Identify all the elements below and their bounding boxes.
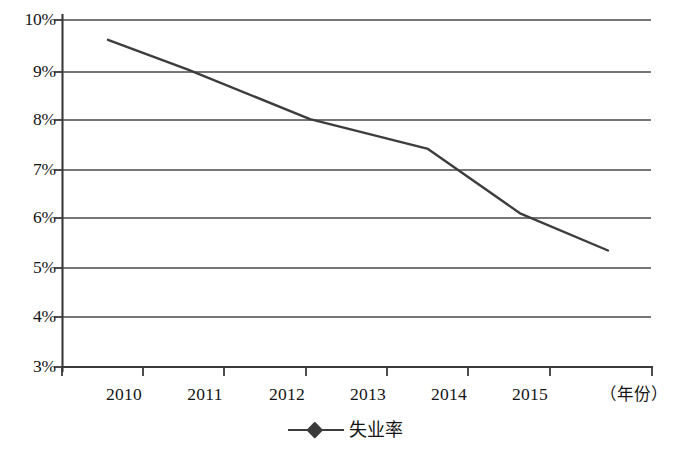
x-axis-label-2010: 2010 [84, 386, 164, 404]
y-axis-label-9: 9% [4, 63, 56, 81]
y-axis-label-10: 10% [4, 11, 56, 29]
chart-plot-area [0, 0, 691, 452]
chart-legend: 失业率 [0, 421, 691, 439]
x-axis-label-2015: 2015 [490, 386, 570, 404]
x-axis-label-2013: 2013 [328, 386, 408, 404]
x-axis-label-2014: 2014 [409, 386, 489, 404]
x-axis-label-2012: 2012 [247, 386, 327, 404]
x-axis-unit-label: （年份） [600, 387, 668, 404]
y-axis-label-3: 3% [4, 358, 56, 376]
gridlines [62, 20, 651, 317]
legend-label-unemployment-rate: 失业率 [349, 421, 403, 439]
legend-marker-icon [288, 422, 344, 438]
y-axis-label-5: 5% [4, 259, 56, 277]
y-axis-labels: 10% 9% 8% 7% 6% 5% 4% 3% [0, 0, 56, 452]
y-axis-label-6: 6% [4, 209, 56, 227]
y-axis-label-7: 7% [4, 161, 56, 179]
line-chart: 10% 9% 8% 7% 6% 5% 4% 3% 2010 2011 2012 … [0, 0, 691, 452]
y-axis-label-4: 4% [4, 308, 56, 326]
x-axis-ticks [62, 367, 652, 376]
y-axis-label-8: 8% [4, 111, 56, 129]
x-axis-label-2011: 2011 [165, 386, 245, 404]
axis-spines [62, 14, 653, 372]
